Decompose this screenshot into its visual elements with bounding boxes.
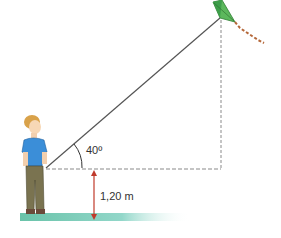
height-arrow (91, 170, 97, 220)
kite-diagram (0, 0, 281, 238)
angle-arc (74, 144, 82, 168)
kite-string (46, 18, 220, 168)
height-label: 1,20 m (100, 190, 134, 202)
ground (20, 213, 190, 221)
boy-figure (22, 115, 47, 214)
angle-label: 40º (86, 144, 102, 156)
